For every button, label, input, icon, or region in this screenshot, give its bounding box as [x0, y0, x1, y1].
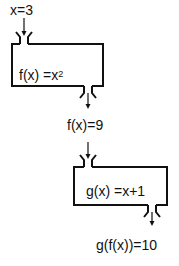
input-label: x=3 [10, 3, 33, 17]
input-label-text: x=3 [10, 2, 33, 18]
diagram-shapes [0, 0, 179, 266]
machine-2-function-name: g(x) [86, 183, 110, 199]
machine-1-function: f(x) =x2 [19, 68, 63, 82]
intermediate-label: f(x)=9 [67, 118, 103, 132]
machine-1-function-name: f(x) [19, 67, 39, 83]
machine-1-exponent: 2 [58, 69, 63, 79]
machine-1-function-body: =x [43, 67, 58, 83]
output-label-text: g(f(x))=10 [96, 237, 157, 253]
output-label: g(f(x))=10 [96, 238, 157, 252]
machine-2-function-body: =x+1 [114, 183, 145, 199]
machine-2-function: g(x) =x+1 [86, 184, 145, 198]
intermediate-label-text: f(x)=9 [67, 117, 103, 133]
